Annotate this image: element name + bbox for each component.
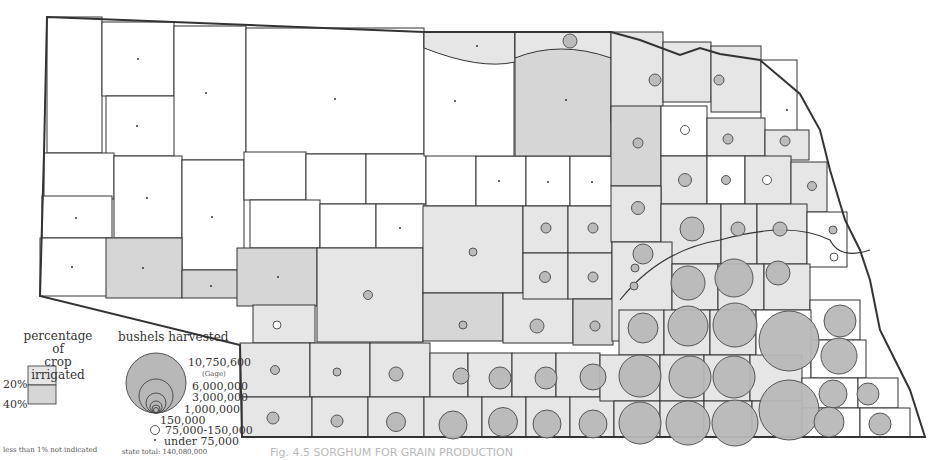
legend-bushels-max: 10,750,600 <box>188 356 251 369</box>
legend-bushels-title: bushels harvested <box>118 331 228 344</box>
legend-irrigation-title-line2: crop irrigated <box>18 356 98 382</box>
legend-irrigation-title: percentage of crop irrigated <box>18 330 98 382</box>
figure-caption: Fig. 4.5 SORGHUM FOR GRAIN PRODUCTION <box>270 446 513 459</box>
legend-irrigation-40: 40% <box>3 398 27 411</box>
legend-irrigation-title-line1: percentage of <box>18 330 98 356</box>
legend-irrigation-20: 20% <box>3 378 27 391</box>
legend-bushels-max-county: (Gage) <box>202 370 226 378</box>
legend-state-total: state total: 140,080,000 <box>122 448 207 456</box>
legend-irrigation-note: less than 1% not indicated <box>3 446 97 454</box>
legend-bushels-under-75k: under 75,000 <box>164 435 239 448</box>
nebraska-sorghum-map <box>0 0 935 460</box>
